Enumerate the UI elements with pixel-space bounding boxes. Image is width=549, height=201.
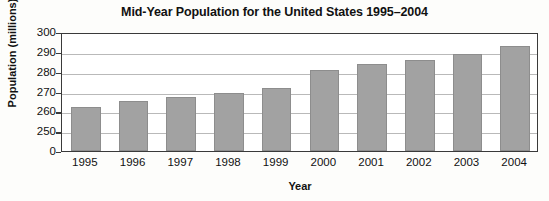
x-axis-tick-label: 2001 [347,156,395,168]
x-axis-tick-label: 2004 [490,156,538,168]
bar [71,107,101,151]
y-axis-tick-label: 300 [22,27,56,39]
bar [166,97,196,151]
y-axis-tick-label: 250 [22,126,56,138]
y-axis-tick-label: 0 [22,146,56,158]
bar [214,93,244,151]
bar-series [62,34,537,151]
bar [357,64,387,151]
bar [405,60,435,151]
x-axis-tick-label: 1996 [109,156,157,168]
x-axis-tick-label: 2000 [299,156,347,168]
chart-title: Mid-Year Population for the United State… [0,5,549,19]
bar [310,70,340,151]
bar [453,54,483,151]
x-axis-tick-label: 1999 [252,156,300,168]
bar [119,101,149,151]
y-axis-tick-label: 270 [22,87,56,99]
x-axis-title: Year [60,180,540,192]
x-axis-tick-label: 2002 [395,156,443,168]
bar [262,88,292,151]
y-axis-tick-label: 260 [22,106,56,118]
y-axis-title: Population (millions) [6,0,18,113]
y-axis-tick-mark [56,152,61,153]
x-axis-tick-label: 1997 [156,156,204,168]
bar-chart-figure: Mid-Year Population for the United State… [0,0,549,201]
x-axis-tick-label: 2003 [442,156,490,168]
x-axis-tick-label: 1998 [204,156,252,168]
y-axis-tick-label: 290 [22,47,56,59]
bar [500,46,530,151]
x-axis-tick-label: 1995 [61,156,109,168]
plot-area [61,33,538,152]
y-axis-tick-label: 280 [22,67,56,79]
